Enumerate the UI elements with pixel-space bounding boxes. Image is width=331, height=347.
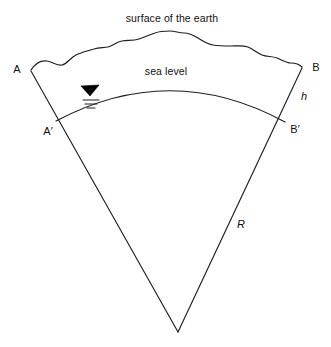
sea-level-label: sea level: [145, 66, 187, 77]
right-radius-line: [178, 68, 302, 332]
earth-sector-diagram: surface of the earth sea level A B A′ B′…: [0, 0, 331, 347]
point-b-prime-label: B′: [290, 124, 299, 135]
point-a-label: A: [13, 64, 20, 75]
radius-r-label: R: [237, 219, 245, 230]
diagram-canvas: [0, 0, 331, 347]
surface-of-the-earth-label: surface of the earth: [126, 13, 218, 24]
left-radius-line: [31, 71, 178, 332]
point-a-prime-label: A′: [43, 126, 52, 137]
point-b-label: B: [312, 62, 319, 73]
water-level-triangle-icon: [81, 85, 99, 96]
height-h-label: h: [301, 91, 307, 102]
